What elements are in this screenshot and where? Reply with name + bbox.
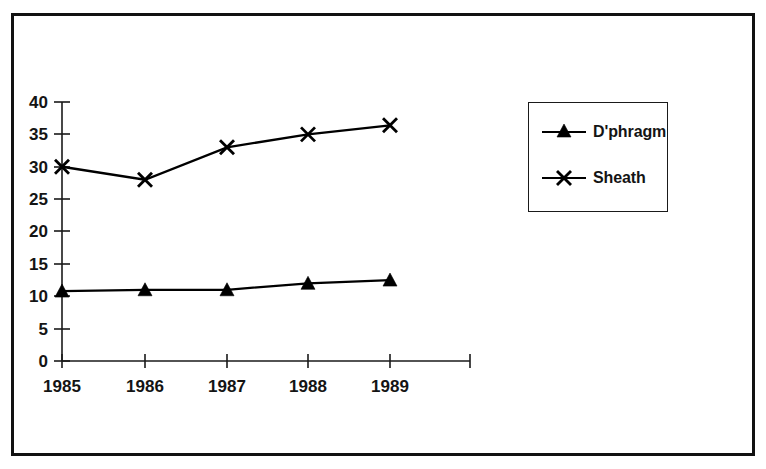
chart-legend: D'phragm Sheath xyxy=(528,102,668,212)
series-sheath xyxy=(55,118,397,186)
series-layer xyxy=(55,118,397,297)
legend-entry-sheath: Sheath xyxy=(529,165,667,191)
x-axis-tick-labels: 1985 1986 1987 1988 1989 xyxy=(43,377,409,396)
series-d-phragm xyxy=(55,273,397,297)
y-tick-label-10: 10 xyxy=(29,287,48,306)
y-tick-label-15: 15 xyxy=(29,255,48,274)
x-tick-label-1989: 1989 xyxy=(371,377,409,396)
y-tick-label-5: 5 xyxy=(39,320,48,339)
line-chart-plot: 40 35 30 25 20 15 10 5 0 xyxy=(0,0,766,469)
legend-label-dphragm: D'phragm xyxy=(593,123,666,141)
y-axis: 40 35 30 25 20 15 10 5 0 xyxy=(29,93,70,371)
x-tick-label-1986: 1986 xyxy=(126,377,164,396)
legend-label-sheath: Sheath xyxy=(593,169,646,187)
x-marker-icon xyxy=(541,166,587,190)
y-tick-label-30: 30 xyxy=(29,158,48,177)
y-tick-label-0: 0 xyxy=(39,352,48,371)
triangle-marker-icon xyxy=(541,120,587,144)
legend-entry-dphragm: D'phragm xyxy=(529,119,667,145)
x-tick-label-1985: 1985 xyxy=(43,377,81,396)
series-line xyxy=(62,125,390,179)
chart-figure: 40 35 30 25 20 15 10 5 0 xyxy=(0,0,766,469)
y-tick-label-35: 35 xyxy=(29,125,48,144)
x-axis: 1985 1986 1987 1988 1989 xyxy=(43,354,470,396)
x-tick-label-1988: 1988 xyxy=(289,377,327,396)
y-tick-label-20: 20 xyxy=(29,222,48,241)
x-tick-label-1987: 1987 xyxy=(208,377,246,396)
y-tick-label-40: 40 xyxy=(29,93,48,112)
y-axis-tick-labels: 40 35 30 25 20 15 10 5 0 xyxy=(29,93,48,371)
y-tick-label-25: 25 xyxy=(29,190,48,209)
